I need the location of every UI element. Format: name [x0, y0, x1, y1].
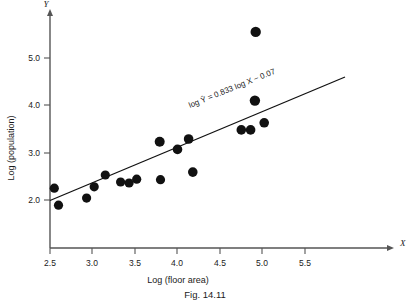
data-point	[188, 167, 198, 177]
y-axis-arrow-icon	[47, 9, 53, 16]
x-tick-label: 3.5	[129, 258, 141, 268]
data-point	[184, 134, 194, 144]
x-tick-label: 2.5	[44, 258, 56, 268]
data-point	[250, 95, 260, 105]
y-axis-title: Log (population)	[6, 115, 16, 180]
figure-caption: Fig. 14.11	[184, 289, 226, 300]
data-point	[101, 170, 110, 179]
scatter-plot: Y X 5.0 4.0 3.0 2.0 2.5 3.0 3.5	[0, 0, 411, 300]
x-tick-group: 2.5 3.0 3.5 4.0 4.5 5.0 5.5	[44, 248, 311, 268]
data-point	[246, 125, 256, 135]
y-tick-label: 3.0	[28, 148, 40, 158]
data-point	[237, 125, 247, 135]
x-axis-symbol: X	[399, 238, 406, 248]
x-tick-label: 3.0	[86, 258, 98, 268]
data-point	[259, 118, 269, 128]
data-point	[50, 184, 59, 193]
data-point	[155, 137, 165, 147]
regression-line	[50, 77, 345, 201]
x-tick-label: 5.5	[299, 258, 311, 268]
data-point	[116, 177, 125, 186]
x-axis-arrow-icon	[387, 245, 394, 251]
y-tick-group: 5.0 4.0 3.0 2.0	[28, 53, 50, 205]
figure-container: Y X 5.0 4.0 3.0 2.0 2.5 3.0 3.5	[0, 0, 411, 300]
x-tick-label: 5.0	[256, 258, 268, 268]
data-point	[90, 182, 99, 191]
x-tick-label: 4.0	[171, 258, 183, 268]
data-point	[251, 27, 261, 37]
data-point-group	[50, 27, 269, 210]
data-point	[82, 194, 91, 203]
x-axis-title: Log (floor area)	[147, 275, 209, 285]
y-axis-symbol: Y	[43, 0, 49, 9]
y-tick-label: 4.0	[28, 100, 40, 110]
regression-equation-label: log Ŷ = 0.833 log X − 0.07	[187, 67, 277, 110]
x-axis: X	[50, 238, 406, 251]
data-point	[54, 201, 63, 210]
y-axis: Y	[43, 0, 53, 248]
data-point	[156, 175, 165, 184]
y-tick-label: 2.0	[28, 195, 40, 205]
x-tick-label: 4.5	[214, 258, 226, 268]
y-tick-label: 5.0	[28, 53, 40, 63]
data-point	[132, 175, 141, 184]
data-point	[173, 145, 183, 155]
